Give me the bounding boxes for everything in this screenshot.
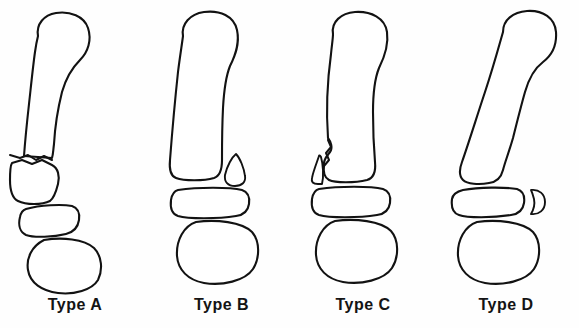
type-b-middle-phalanx: [171, 188, 249, 219]
type-c-illustration: [293, 0, 433, 300]
type-b-illustration: [150, 0, 293, 300]
type-d-middle-phalanx: [452, 188, 524, 218]
fracture-classification-figure: Type A Type B Type C: [0, 0, 579, 328]
type-d-lateral-fragment: [531, 190, 545, 214]
panel-type-c: Type C: [293, 0, 433, 328]
type-a-distal-fragment: [10, 160, 59, 204]
type-c-distal-phalanx: [316, 220, 397, 283]
type-b-lateral-fragment: [225, 154, 245, 186]
caption-type-b: Type B: [150, 296, 293, 314]
type-d-proximal-shaft: [460, 11, 556, 184]
type-a-middle-phalanx: [19, 205, 79, 237]
panel-type-d: Type D: [433, 0, 579, 328]
type-b-distal-phalanx: [177, 221, 258, 284]
type-a-illustration: [0, 0, 150, 300]
type-a-distal-phalanx: [28, 239, 101, 294]
type-d-illustration: [433, 0, 579, 300]
type-a-proximal-shaft: [24, 13, 90, 158]
type-a-fracture-line: [10, 155, 52, 160]
type-c-middle-phalanx: [312, 187, 390, 218]
caption-type-a: Type A: [0, 296, 150, 314]
panel-type-b: Type B: [150, 0, 293, 328]
type-d-distal-phalanx: [458, 221, 539, 284]
caption-type-d: Type D: [433, 296, 579, 314]
panel-type-a: Type A: [0, 0, 150, 328]
type-c-proximal-shaft: [324, 12, 388, 182]
type-b-proximal-shaft: [170, 12, 238, 181]
type-c-medial-fragment: [312, 155, 323, 184]
caption-type-c: Type C: [293, 296, 433, 314]
